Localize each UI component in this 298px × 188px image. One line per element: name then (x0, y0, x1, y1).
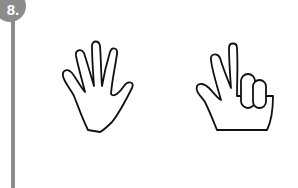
item-number: 8. (7, 1, 20, 18)
open-hand-icon (60, 40, 160, 145)
three-finger-hand-icon (195, 40, 295, 145)
vertical-rule (11, 20, 15, 188)
item-number-badge: 8. (0, 0, 26, 22)
